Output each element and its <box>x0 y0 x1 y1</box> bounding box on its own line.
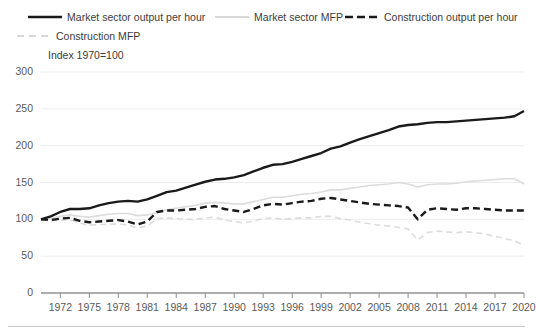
series-line <box>41 111 524 219</box>
x-tick-label: 1993 <box>251 301 274 313</box>
y-tick-label: 0 <box>0 286 33 298</box>
series-line <box>41 216 524 245</box>
x-tick-label: 1999 <box>309 301 332 313</box>
series-line <box>41 179 524 220</box>
x-tick-label: 1981 <box>136 301 159 313</box>
x-tick-label: 1972 <box>49 301 72 313</box>
y-tick-label: 200 <box>0 139 33 151</box>
x-tick-label: 2008 <box>396 301 419 313</box>
x-tick-label: 1987 <box>194 301 217 313</box>
x-tick-label: 2014 <box>454 301 477 313</box>
x-tick-label: 1996 <box>280 301 303 313</box>
x-tick-label: 2017 <box>483 301 506 313</box>
y-tick-label: 250 <box>0 102 33 114</box>
x-tick-label: 2002 <box>338 301 361 313</box>
x-axis <box>41 293 524 298</box>
y-gridlines <box>41 72 524 293</box>
y-tick-label: 50 <box>0 249 33 261</box>
x-tick-label: 1984 <box>165 301 188 313</box>
x-tick-label: 1975 <box>78 301 101 313</box>
x-tick-label: 2011 <box>426 301 449 313</box>
y-tick-label: 300 <box>0 65 33 77</box>
footer-divider <box>8 326 525 327</box>
x-tick-label: 2020 <box>512 301 535 313</box>
y-tick-label: 150 <box>0 176 33 188</box>
x-tick-label: 1978 <box>107 301 130 313</box>
y-tick-label: 100 <box>0 212 33 224</box>
x-tick-label: 2005 <box>367 301 390 313</box>
x-tick-label: 1990 <box>223 301 246 313</box>
